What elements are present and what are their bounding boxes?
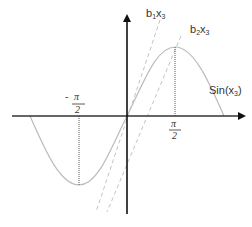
svg-text:π: π: [74, 91, 80, 102]
tangent-line-b2: [107, 36, 181, 212]
svg-text:-: -: [65, 91, 68, 102]
label-neg-half-pi: - π 2: [65, 91, 85, 115]
label-b2x3: b2x3: [190, 23, 210, 36]
label-half-pi: π 2: [169, 118, 181, 141]
label-b1x3: b1x3: [146, 7, 166, 20]
sine-diagram: b1x3 b2x3 Sin(x3) - π 2 π 2: [0, 0, 252, 227]
svg-text:2: 2: [75, 104, 80, 115]
label-sin-x3: Sin(x3): [209, 84, 242, 97]
svg-text:2: 2: [172, 130, 177, 141]
svg-text:π: π: [171, 118, 177, 129]
